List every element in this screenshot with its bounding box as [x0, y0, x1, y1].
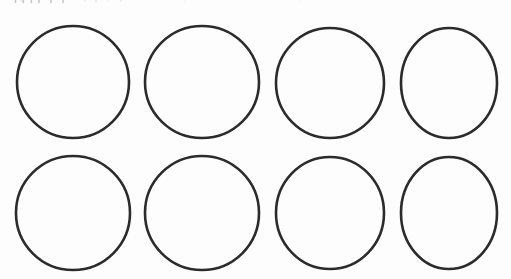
worksheet-page: pppp p p	[0, 0, 511, 279]
circle-stroke	[17, 26, 129, 138]
circle-stroke	[401, 28, 497, 138]
circle-outline-shape	[13, 22, 133, 142]
circle-outline-shape	[272, 153, 388, 273]
circle-outline-shape	[141, 22, 263, 142]
circle-stroke	[145, 26, 259, 138]
circle-stroke	[16, 156, 130, 270]
circle-outline-shape	[272, 24, 388, 142]
circle-stroke	[276, 157, 384, 269]
circle-stroke	[276, 28, 384, 138]
circle-grid	[0, 0, 511, 279]
circle-outline-shape	[397, 153, 501, 273]
circle-stroke	[145, 156, 259, 270]
circle-outline-shape	[141, 152, 263, 274]
circle-outline-shape	[397, 24, 501, 142]
circle-stroke	[401, 157, 497, 269]
circle-outline-shape	[12, 152, 134, 274]
